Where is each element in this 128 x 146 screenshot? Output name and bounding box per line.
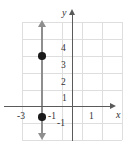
x-tick-label-negative-1: -1	[48, 112, 56, 122]
y-tick-label-3: 3	[61, 61, 66, 71]
labels: y x 4 3 2 1 -1 -3 -1 1	[0, 0, 128, 146]
x-tick-label-1: 1	[89, 112, 94, 122]
y-tick-label-1: 1	[62, 94, 67, 104]
y-tick-label-negative-1: -1	[57, 119, 65, 129]
graph-figure: y x 4 3 2 1 -1 -3 -1 1	[0, 0, 128, 146]
x-tick-label-negative-3: -3	[17, 112, 25, 122]
y-tick-label-4: 4	[61, 44, 66, 54]
x-axis-label: x	[116, 110, 120, 120]
y-tick-label-2: 2	[61, 78, 66, 88]
y-axis-label: y	[62, 8, 66, 18]
